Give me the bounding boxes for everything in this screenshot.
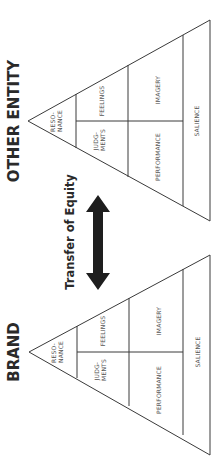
double-headed-arrow-icon bbox=[86, 195, 110, 290]
cell-performance: PERFORMANCE bbox=[155, 366, 162, 414]
brand-title: BRAND bbox=[5, 322, 23, 382]
cell-salience: SALIENCE bbox=[194, 336, 201, 367]
other-entity-pyramid: RESO- NANCE FEELINGS JUDG- MENTS IMAGERY… bbox=[28, 20, 210, 221]
transfer-of-equity-label: Transfer of Equity bbox=[63, 174, 77, 290]
cell-judgments: JUDG- MENTS bbox=[93, 359, 107, 381]
brand-pyramid: RESO- NANCE FEELINGS JUDG- MENTS IMAGERY… bbox=[29, 255, 210, 455]
cell-imagery: IMAGERY bbox=[155, 307, 162, 335]
cell-judgments: JUDG- MENTS bbox=[92, 129, 106, 151]
other-entity-title: OTHER ENTITY bbox=[5, 59, 23, 182]
cell-feelings: FEELINGS bbox=[98, 86, 105, 117]
cell-performance: PERFORMANCE bbox=[154, 133, 161, 181]
cell-salience: SALIENCE bbox=[193, 105, 200, 136]
cell-resonance: RESO- NANCE bbox=[49, 110, 63, 132]
cell-feelings: FEELINGS bbox=[99, 316, 106, 347]
cell-imagery: IMAGERY bbox=[154, 76, 161, 104]
brand-equity-transfer-diagram: OTHER ENTITY RESO- NANCE FEELINGS JUDG- … bbox=[0, 0, 215, 465]
cell-resonance: RESO- NANCE bbox=[50, 341, 64, 363]
